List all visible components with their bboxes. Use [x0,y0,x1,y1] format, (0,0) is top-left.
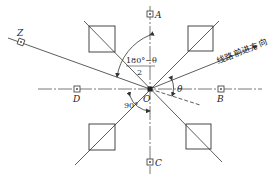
label-c: C [155,158,162,168]
stake-marker-z [17,38,25,46]
label-z: Z [16,28,24,38]
stake-marker-b [218,86,224,92]
right-angle-label: 90° [124,101,138,110]
stake-marker-d [74,86,80,92]
stake-layout-diagram: A C D B Z O 180°−θ 2 θ 90° 线路前进方向 [0,0,276,180]
pier-square-se [186,124,211,149]
stake-marker-a [147,11,153,17]
label-d: D [72,94,80,104]
half-angle-denominator: 2 [137,68,142,77]
theta-arc [172,80,174,96]
route-direction-label: 线路前进方向 [215,36,269,66]
theta-dashed-line [150,89,200,105]
label-a: A [154,10,162,20]
label-b: B [216,94,224,104]
center-marker-o [148,87,153,92]
stake-marker-c [147,159,153,165]
label-o: O [143,94,151,104]
half-angle-numerator: 180°−θ [126,56,157,65]
pier-square-sw [89,124,115,150]
diagonal-ne-sw [75,21,219,165]
diagonal-nw-se [84,21,222,162]
pier-square-ne [188,26,213,51]
theta-label: θ [177,84,183,94]
